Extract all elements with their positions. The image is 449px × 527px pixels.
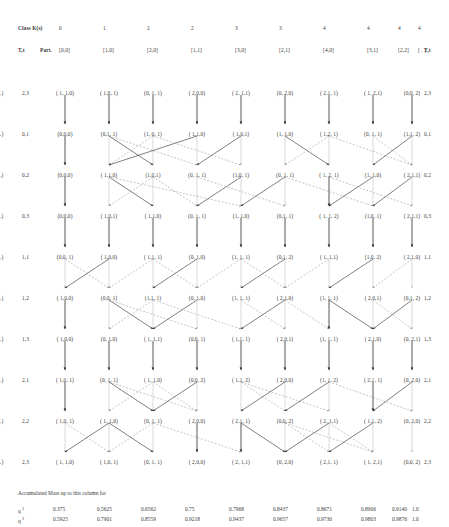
- row-label-left-0: 2,3: [22, 90, 29, 96]
- state-tuple: ( 1,0, 1): [100, 459, 118, 465]
- state-tuple: (0,0, 1): [189, 336, 206, 342]
- tk-left-label: T,t: [18, 47, 25, 53]
- state-tuple: ( 2,0,1): [365, 295, 382, 301]
- state-tuple: (0,1, 2): [277, 254, 294, 260]
- partition-4: [3,0]: [235, 47, 246, 53]
- row-label-right-7: 2,1: [424, 377, 431, 383]
- state-tuple: ( 1, 1,0): [56, 90, 74, 96]
- state-tuple: (1, 1, 2): [320, 377, 338, 383]
- mass-value: 0.7901: [97, 516, 112, 522]
- state-tuple: (1,0,1): [145, 172, 160, 178]
- state-tuple: (0, 1, 1): [364, 131, 382, 137]
- state-tuple: ( 1, 1,0): [56, 459, 74, 465]
- state-tuple: ( 1,0, 1): [56, 377, 74, 383]
- state-tuple: ( 2,1, 1): [320, 459, 338, 465]
- state-tuple: (0,1, 1): [101, 131, 118, 137]
- mass-value: 0.9657: [273, 516, 288, 522]
- state-tuple: ( 1,1,0): [101, 172, 118, 178]
- state-tuple: (0, 1, 1): [188, 213, 206, 219]
- state-tuple: (0, 1, 1): [188, 172, 206, 178]
- state-tuple: (..): [0, 377, 3, 383]
- state-tuple: (0,0, 1): [101, 295, 118, 301]
- partition-0: [0,0]: [59, 47, 70, 53]
- state-tuple: (..): [0, 418, 3, 424]
- mass-value: 0.8559: [141, 516, 156, 522]
- state-tuple: ( 2,0,0): [189, 418, 206, 424]
- row-label-left-2: 0,2: [22, 172, 29, 178]
- state-tuple: ( 1,1,0): [189, 131, 206, 137]
- row-label-right-6: 1,3: [424, 336, 431, 342]
- state-tuple: (0, 1,0): [189, 254, 206, 260]
- state-tuple: (0,0,0): [57, 131, 72, 137]
- state-tuple: (0, 1, 1): [100, 377, 118, 383]
- class-value-1: 1: [103, 25, 106, 31]
- partition-3: [1,1]: [191, 47, 202, 53]
- class-value-2: 2: [147, 25, 150, 31]
- state-tuple: (1,0, 2): [365, 254, 382, 260]
- state-tuple: (1,0, 1): [233, 172, 250, 178]
- mass-caption: Accumulated Mass up to this column for: [18, 490, 106, 496]
- state-tuple: ( 1,1,0): [145, 213, 162, 219]
- class-value-9: 4: [418, 25, 421, 31]
- state-tuple: (1,0, 1): [365, 213, 382, 219]
- state-tuple: ( 1,0, 1): [100, 90, 118, 96]
- mass-value: 0.8671: [317, 506, 332, 512]
- state-tuple: ( 1, 2,1): [364, 90, 382, 96]
- row-label-right-4: 1,1: [424, 254, 431, 260]
- row-label-left-4: 1,1: [22, 254, 29, 260]
- row-label-left-9: 2,3: [22, 459, 29, 465]
- state-tuple: (..): [0, 254, 3, 260]
- mass-value: 0.5625: [97, 506, 112, 512]
- state-tuple: ( 2,0,0): [189, 459, 206, 465]
- state-tuple: (0, 1, 1): [144, 418, 162, 424]
- mass-series-label-0: q 2: [18, 506, 24, 514]
- row-label-left-3: 0,3: [22, 213, 29, 219]
- row-label-right-5: 1,2: [424, 295, 431, 301]
- state-tuple: ( 1,1, 2): [232, 377, 250, 383]
- state-tuple: ( 1, 1,0): [144, 377, 162, 383]
- state-tuple: (0,0,0): [57, 213, 72, 219]
- class-value-5: 3: [279, 25, 282, 31]
- state-tuple: (..): [0, 295, 3, 301]
- mass-value: 0.75: [185, 506, 194, 512]
- state-tuple: (0, 2,0): [404, 377, 421, 383]
- state-tuple: (0, 2,0): [277, 90, 294, 96]
- state-tuple: (0,1, 1): [277, 213, 294, 219]
- partition-9: [ . ]: [418, 47, 426, 53]
- state-tuple: (..): [0, 172, 3, 178]
- state-tuple: ( 1,0, 1): [56, 418, 74, 424]
- row-label-right-2: 0,2: [424, 172, 431, 178]
- state-tuple: (0,1, 2): [404, 295, 421, 301]
- state-tuple: (0, 2,0): [404, 418, 421, 424]
- state-tuple: ( 1,0,0): [101, 254, 118, 260]
- state-tuple: (1, 1, 1): [320, 295, 338, 301]
- state-tuple: ( 2,1,0): [365, 336, 382, 342]
- state-tuple: ( 1,1, 1): [232, 336, 250, 342]
- mass-value: 0.9876: [392, 516, 407, 522]
- state-tuple: ( 2,1, 1): [320, 90, 338, 96]
- state-tuple: ( 2,1,1): [404, 213, 421, 219]
- mass-series-label-1: q 3: [18, 516, 24, 524]
- row-label-right-8: 2,2: [424, 418, 431, 424]
- mass-value: 0.7968: [229, 506, 244, 512]
- state-tuple: (0,0,0): [57, 172, 72, 178]
- class-value-3: 2: [191, 25, 194, 31]
- state-tuple: (..): [0, 213, 3, 219]
- state-tuple: (0,0, 2): [189, 377, 206, 383]
- state-tuple: ( 1, 2, 1): [319, 172, 338, 178]
- state-tuple: (1, 1, 1): [232, 254, 250, 260]
- state-tuple: ( 2,1, 1): [364, 377, 382, 383]
- partition-1: [1,0]: [103, 47, 114, 53]
- state-tuple: ( 2,1,0): [277, 295, 294, 301]
- mass-value: 0.6562: [141, 506, 156, 512]
- mass-value: 0.8906: [361, 506, 376, 512]
- state-tuple: ( 1, 1,0): [100, 418, 118, 424]
- state-tuple: (0,0, 2): [404, 459, 421, 465]
- state-tuple: ( 2,1,0): [404, 254, 421, 260]
- row-label-left-5: 1,2: [22, 295, 29, 301]
- state-tuple: (1, 1, 1): [320, 336, 338, 342]
- state-tuple: ( 1,2, 1): [320, 131, 338, 137]
- row-label-left-8: 2,2: [22, 418, 29, 424]
- state-tuple: ( 2,0,1): [277, 336, 294, 342]
- state-tuple: ( 2, 1,1): [232, 459, 250, 465]
